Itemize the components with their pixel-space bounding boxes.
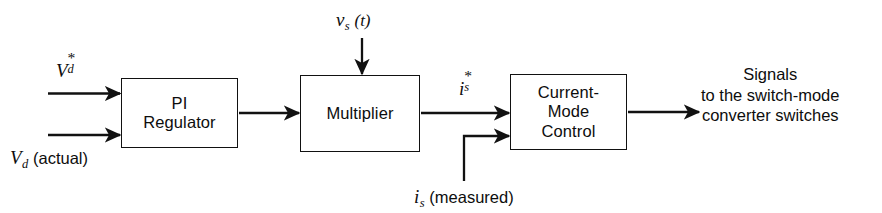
symbol-subscript: d <box>68 62 74 77</box>
block-label-line: PI <box>172 94 188 112</box>
symbol-suffix: (measured) <box>429 188 513 206</box>
block-diagram-canvas: PI Regulator Multiplier Current- Mode Co… <box>0 0 882 213</box>
symbol-subscript: d <box>22 157 28 171</box>
block-current-mode-control-label: Current- Mode Control <box>538 83 599 141</box>
block-current-mode-control[interactable]: Current- Mode Control <box>510 74 627 150</box>
symbol-subscript: s <box>420 196 425 210</box>
block-multiplier[interactable]: Multiplier <box>300 75 420 152</box>
output-text-line: to the switch-mode <box>701 86 839 104</box>
output-signals-text: Signals to the switch-mode converter swi… <box>701 64 839 126</box>
symbol-base: i <box>414 186 419 207</box>
symbol-base: v <box>336 9 344 30</box>
symbol-base: V <box>56 60 68 81</box>
block-label-line: Multiplier <box>326 104 393 122</box>
block-pi-regulator-label: PI Regulator <box>143 94 215 133</box>
label-is-measured: is (measured) <box>414 185 514 211</box>
symbol-subscript: s <box>345 19 350 33</box>
block-label-line: Current- <box>538 83 599 101</box>
block-label-line: Control <box>542 122 596 140</box>
wire-is-measured-feedback <box>464 136 509 181</box>
block-multiplier-label: Multiplier <box>326 104 393 123</box>
symbol-suffix: (t) <box>354 11 370 30</box>
output-text-line: converter switches <box>702 106 839 124</box>
label-vd-actual: Vd (actual) <box>10 146 88 172</box>
label-vs-t: vs (t) <box>336 8 371 34</box>
symbol-suffix: (actual) <box>33 149 88 167</box>
block-pi-regulator[interactable]: PI Regulator <box>121 78 238 148</box>
label-vd-reference: V*d <box>56 58 77 82</box>
symbol-base: V <box>10 147 22 168</box>
label-is-reference: i*s <box>459 76 474 100</box>
block-label-line: Mode <box>548 102 590 120</box>
output-text-line: Signals <box>743 65 797 83</box>
block-label-line: Regulator <box>143 113 215 131</box>
symbol-subscript: s <box>464 80 469 95</box>
